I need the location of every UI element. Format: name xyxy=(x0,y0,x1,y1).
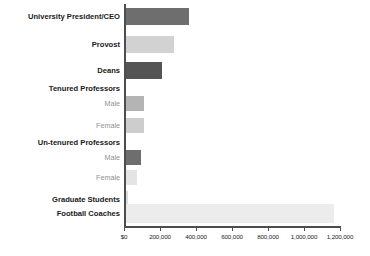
label-female-5: Female xyxy=(96,122,120,129)
label-male-4: Male xyxy=(104,100,120,107)
x-tick-label-2: 400,000 xyxy=(185,233,207,240)
x-tick-1 xyxy=(160,226,161,231)
label-deans-2: Deans xyxy=(97,67,120,75)
bar-male-7 xyxy=(125,150,141,165)
bar-deans-2 xyxy=(125,62,162,79)
x-tick-4 xyxy=(268,226,269,231)
x-tick-label-6: 1,200,000 xyxy=(327,233,354,240)
label-football-coaches-10: Football Coaches xyxy=(57,210,120,218)
x-tick-label-1: 200,000 xyxy=(149,233,171,240)
bar-female-5 xyxy=(125,118,144,133)
bar-provost-1 xyxy=(125,36,174,53)
label-male-7: Male xyxy=(104,154,120,161)
x-tick-label-5: 1,000,000 xyxy=(291,233,318,240)
x-tick-2 xyxy=(196,226,197,231)
bar-chart: University President/CEOProvostDeansTenu… xyxy=(0,0,370,256)
label-un-tenured-professors-6: Un-tenured Professors xyxy=(38,139,120,147)
label-female-8: Female xyxy=(96,174,120,181)
bar-football-coaches-10 xyxy=(125,204,334,223)
label-provost-1: Provost xyxy=(92,41,120,49)
x-tick-6 xyxy=(340,226,341,231)
bar-male-4 xyxy=(125,96,144,111)
label-graduate-students-9: Graduate Students xyxy=(52,196,120,204)
x-tick-label-0: $0 xyxy=(121,233,128,240)
bar-female-8 xyxy=(125,170,137,185)
label-tenured-professors-3: Tenured Professors xyxy=(49,85,120,93)
x-tick-0 xyxy=(124,226,125,231)
bar-university-president-ceo-0 xyxy=(125,8,189,25)
x-tick-label-4: 800,000 xyxy=(257,233,279,240)
label-university-president-ceo-0: University President/CEO xyxy=(28,13,120,21)
y-axis-line xyxy=(124,4,126,226)
x-tick-label-3: 600,000 xyxy=(221,233,243,240)
x-tick-5 xyxy=(304,226,305,231)
x-tick-3 xyxy=(232,226,233,231)
